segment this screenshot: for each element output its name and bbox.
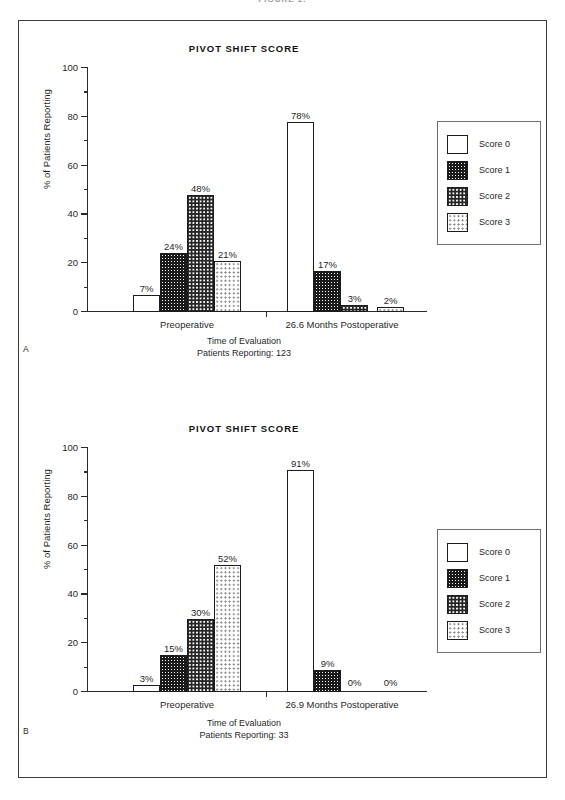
panel-a-y-axis-label: % of Patients Reporting <box>41 89 52 189</box>
panel-a-ytick-minor-50 <box>84 189 88 190</box>
panel-a-bar-post-score1[interactable]: 17% <box>314 271 341 313</box>
panel-a-ytick-minor-10 <box>84 287 88 288</box>
panel-a-legend-item-score1[interactable]: Score 1 <box>447 157 540 183</box>
panel-b-y-axis-line <box>87 447 88 692</box>
legend-swatch-score1-icon <box>447 161 468 180</box>
panel-b-plot-area: 100 80 60 40 20 0 3% 15% 30% 52% 91% 9% … <box>87 447 427 692</box>
panel-b-bar-pre-score0[interactable]: 3% <box>133 685 160 692</box>
panel-b-y-axis-label: % of Patients Reporting <box>41 469 52 569</box>
panel-b-ytick-minor-50 <box>84 569 88 570</box>
panel-a-ytick-minor-90 <box>84 91 88 92</box>
panel-a-y-axis-line <box>87 67 88 312</box>
panel-b-bar-pre-score2[interactable]: 30% <box>187 619 214 692</box>
panel-b-bar-post-score1[interactable]: 9% <box>314 670 341 692</box>
page-top-header-strip: FIGURE 2. <box>0 0 565 12</box>
chart-panel-b: PIVOT SHIFT SCORE B % of Patients Report… <box>19 409 548 771</box>
figure-frame: PIVOT SHIFT SCORE A % of Patients Report… <box>18 20 547 778</box>
panel-b-legend-item-score1[interactable]: Score 1 <box>447 565 540 591</box>
chart-panel-a: PIVOT SHIFT SCORE A % of Patients Report… <box>19 29 548 389</box>
panel-a-bar-pre-score0[interactable]: 7% <box>133 295 160 312</box>
panel-a-ytick-minor-70 <box>84 140 88 141</box>
panel-a-bar-pre-score1[interactable]: 24% <box>160 253 187 312</box>
panel-b-legend-item-score2[interactable]: Score 2 <box>447 591 540 617</box>
panel-b-xcat-postoperative: 26.9 Months Postoperative <box>285 699 398 710</box>
panel-a-legend-item-score2[interactable]: Score 2 <box>447 183 540 209</box>
panel-a-legend: Score 0 Score 1 Score 2 Score 3 <box>437 121 541 245</box>
panel-b-ytick-minor-90 <box>84 471 88 472</box>
panel-a-legend-item-score3[interactable]: Score 3 <box>447 209 540 235</box>
panel-a-bar-pre-score2[interactable]: 48% <box>187 195 214 312</box>
panel-b-bar-pre-score1[interactable]: 15% <box>160 655 187 692</box>
panel-a-ytick-minor-30 <box>84 238 88 239</box>
panel-b-ytick-minor-30 <box>84 618 88 619</box>
panel-b-ytick-minor-10 <box>84 667 88 668</box>
legend-swatch-score1-icon <box>447 569 468 588</box>
panel-a-legend-item-score0[interactable]: Score 0 <box>447 131 540 157</box>
panel-b-xtick-divider <box>266 691 267 697</box>
panel-a-footer: Time of Evaluation Patients Reporting: 1… <box>79 335 409 359</box>
panel-a-xcat-preoperative: Preoperative <box>160 319 214 330</box>
panel-a-bar-post-score0[interactable]: 78% <box>287 122 314 312</box>
panel-b-title: PIVOT SHIFT SCORE <box>79 423 409 434</box>
panel-b-footer: Time of Evaluation Patients Reporting: 3… <box>79 717 409 741</box>
legend-swatch-score0-icon <box>447 543 468 562</box>
figure-header-label: FIGURE 2. <box>0 0 565 4</box>
panel-a-footer-x-axis-title: Time of Evaluation <box>79 335 409 347</box>
panel-a-plot-area: 100 80 60 40 20 0 7% 24% 48% 21% 78% 17%… <box>87 67 427 312</box>
panel-a-title: PIVOT SHIFT SCORE <box>79 43 409 54</box>
panel-b-bar-post-score0[interactable]: 91% <box>287 470 314 692</box>
panel-b-footer-x-axis-title: Time of Evaluation <box>79 717 409 729</box>
panel-a-xtick-divider <box>266 311 267 317</box>
panel-a-xcat-postoperative: 26.6 Months Postoperative <box>285 319 398 330</box>
panel-b-ytick-minor-70 <box>84 520 88 521</box>
panel-b-letter: B <box>23 726 29 736</box>
legend-swatch-score0-icon <box>447 135 468 154</box>
legend-swatch-score2-icon <box>447 595 468 614</box>
panel-a-bar-pre-score3[interactable]: 21% <box>214 261 241 312</box>
panel-a-bar-post-score3[interactable]: 2% <box>377 307 404 312</box>
panel-b-footer-patients-reporting: Patients Reporting: 33 <box>79 729 409 741</box>
panel-b-xcat-preoperative: Preoperative <box>160 699 214 710</box>
legend-swatch-score3-icon <box>447 621 468 640</box>
panel-b-legend-item-score0[interactable]: Score 0 <box>447 539 540 565</box>
panel-b-bar-pre-score3[interactable]: 52% <box>214 565 241 692</box>
panel-a-footer-patients-reporting: Patients Reporting: 123 <box>79 347 409 359</box>
panel-a-letter: A <box>23 344 29 354</box>
panel-b-legend: Score 0 Score 1 Score 2 Score 3 <box>437 529 541 653</box>
panel-a-bar-post-score2[interactable]: 3% <box>341 305 368 312</box>
legend-swatch-score3-icon <box>447 213 468 232</box>
panel-b-legend-item-score3[interactable]: Score 3 <box>447 617 540 643</box>
legend-swatch-score2-icon <box>447 187 468 206</box>
page-bottom-caption-strip <box>0 789 565 800</box>
